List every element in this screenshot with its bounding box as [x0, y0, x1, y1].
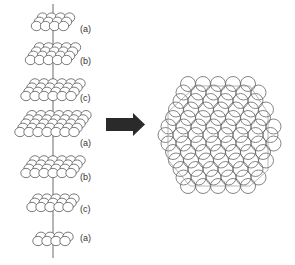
atomic-layer	[33, 232, 73, 246]
atomic-layer	[15, 111, 91, 137]
layer-label: (a)	[80, 24, 91, 34]
atomic-layer	[27, 194, 79, 212]
layer-label: (a)	[80, 138, 91, 148]
layer-label: (c)	[80, 93, 91, 103]
layer-label: (b)	[80, 172, 91, 182]
layer-label: (a)	[80, 233, 91, 243]
right-arrow-icon	[106, 113, 145, 136]
atomic-layer	[21, 79, 85, 101]
atomic-layer	[25, 43, 80, 65]
layer-label: (c)	[80, 204, 91, 214]
diagram-canvas	[0, 0, 295, 265]
layer-label: (b)	[80, 56, 91, 66]
atomic-layer	[21, 156, 85, 178]
cuboctahedral-cluster	[158, 77, 281, 194]
atomic-layer	[31, 13, 74, 31]
